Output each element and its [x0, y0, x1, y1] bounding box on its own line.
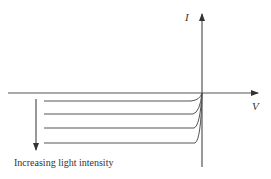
iv-curve-2: [44, 93, 202, 114]
x-axis-label: V: [252, 100, 260, 112]
caption-increasing-light: Increasing light intensity: [14, 157, 113, 168]
iv-diagram: I V Increasing light intensity: [0, 0, 271, 179]
y-axis-label: I: [184, 11, 190, 23]
iv-curve-1: [44, 93, 202, 101]
iv-curve-3: [44, 93, 202, 128]
